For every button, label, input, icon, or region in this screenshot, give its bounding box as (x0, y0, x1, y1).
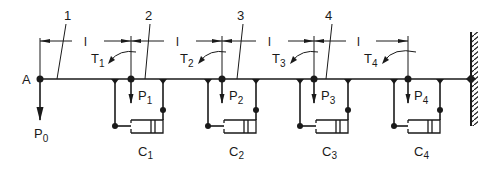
load-arrow-icon (406, 94, 411, 104)
node-2: T2 P2 C2 (180, 51, 260, 161)
node-4: T4 P4 C4 (364, 51, 444, 161)
callout-1: 1 (64, 8, 71, 23)
torque-label: T4 (364, 51, 378, 69)
cylinder-label: C3 (322, 144, 337, 161)
load-arrow-icon (220, 94, 225, 104)
callout-4: 4 (325, 8, 332, 23)
cylinder-label: C4 (414, 144, 429, 161)
load-label: P1 (138, 88, 153, 106)
segment-length-label: l (84, 34, 87, 49)
load-arrow-icon (312, 94, 317, 104)
segment-length-label: l (357, 34, 360, 49)
fixed-wall (466, 32, 478, 126)
node-1: T1 P1 C1 (91, 51, 167, 161)
load-label: P2 (229, 88, 244, 106)
cylinder-label: C2 (229, 144, 244, 161)
segment-length-label: l (176, 34, 179, 49)
point-a-label: A (22, 72, 31, 87)
load-p0-label: P0 (34, 126, 49, 144)
load-arrow-icon (37, 107, 44, 121)
beam-diagram: A P0 l l l l 1 (0, 0, 498, 170)
callout-2: 2 (145, 8, 152, 23)
callout-3: 3 (237, 8, 244, 23)
load-label: P4 (414, 88, 429, 106)
segment-length-label: l (268, 34, 271, 49)
torque-label: T3 (272, 51, 286, 69)
torque-label: T2 (180, 51, 194, 69)
load-arrow-icon (129, 94, 134, 104)
node-3: T3 P3 C3 (272, 51, 352, 161)
load-label: P3 (321, 88, 336, 106)
torque-label: T1 (91, 51, 105, 69)
cylinder-label: C1 (138, 144, 153, 161)
end-point-a: A P0 (22, 72, 49, 144)
